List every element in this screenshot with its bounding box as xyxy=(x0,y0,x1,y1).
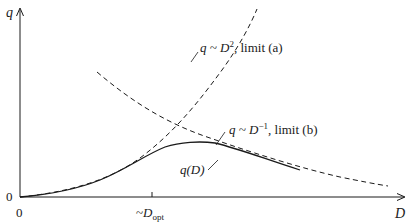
tilde: ~ xyxy=(136,205,143,220)
label-limit-a: q ~ D2, limit (a) xyxy=(200,40,283,54)
label-limit-b-suffix: , limit (b) xyxy=(268,122,317,137)
leader-limit-a xyxy=(191,52,198,62)
x-origin-label: 0 xyxy=(16,206,23,219)
dopt-sub: opt xyxy=(152,212,164,222)
label-limit-a-prefix: q ~ xyxy=(200,40,220,55)
label-limit-a-suffix: , limit (a) xyxy=(234,40,283,55)
y-axis-label: q xyxy=(6,6,13,20)
label-limit-b: q ~ D−1, limit (b) xyxy=(229,122,317,136)
diagram-canvas xyxy=(0,0,411,224)
diagram-figure: q 0 0 D ~Dopt q ~ D2, limit (a) q ~ D−1,… xyxy=(0,0,411,224)
x-tick-label-dopt: ~Dopt xyxy=(136,206,164,222)
leader-q-of-D xyxy=(208,160,218,170)
label-q-of-D: q(D) xyxy=(180,163,205,176)
y-origin-label: 0 xyxy=(6,190,13,203)
x-axis-label: D xyxy=(395,207,405,221)
label-limit-b-prefix: q ~ xyxy=(229,122,249,137)
label-limit-b-sup: −1 xyxy=(258,121,268,131)
curve-q-of-D xyxy=(20,142,300,197)
